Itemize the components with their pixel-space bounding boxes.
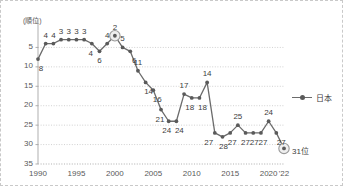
data-point-marker [121,46,125,50]
data-point-marker [136,69,140,73]
data-point-marker [190,96,194,100]
point-value-label: 24 [162,126,171,135]
data-point-marker [144,81,148,85]
x-tick-label: 2000 [104,169,126,178]
data-point-marker [282,147,286,151]
data-point-marker [244,131,248,135]
data-point-marker [174,119,178,123]
data-point-marker [128,49,132,53]
point-value-label: 3 [67,26,71,35]
point-value-label: 14 [144,87,153,96]
point-value-label: 3 [59,26,63,35]
y-tick-label: 10 [12,61,33,70]
data-point-marker [36,57,40,61]
x-tick-label: 2015 [219,169,241,178]
data-point-marker [105,42,109,46]
point-value-label: 27 [228,137,237,146]
data-point-marker [98,49,102,53]
point-value-label: 6 [97,56,101,65]
point-value-label: 4 [105,30,109,39]
x-tick-label: 1990 [27,169,49,178]
data-point-marker [198,96,202,100]
data-point-marker [251,131,255,135]
y-tick-label: 20 [12,100,33,109]
point-value-label: 8 [39,64,43,73]
y-tick-label: 35 [12,159,33,168]
data-point-marker [167,119,171,123]
x-tick-label: 2010 [181,169,203,178]
point-value-label: 24 [264,108,273,117]
point-value-label: 18 [198,102,207,111]
data-point-marker [228,131,232,135]
data-point-marker [159,108,163,112]
data-point-marker [205,81,209,85]
data-point-marker [267,119,271,123]
data-point-marker [113,34,117,38]
point-value-label: 4 [43,30,47,39]
point-value-label: 16 [153,95,162,104]
data-point-marker [90,42,94,46]
point-value-label: 25 [233,112,242,121]
data-point-marker [75,38,79,42]
point-value-label: 24 [175,126,184,135]
point-value-label: 4 [51,30,55,39]
data-point-marker [213,131,217,135]
point-value-label: 14 [203,69,212,78]
legend-label-japan: 日本 [316,92,332,103]
point-value-label: 17 [180,81,189,90]
x-tick-label: 2005 [142,169,164,178]
point-value-label: 27 [250,137,259,146]
point-value-label: 27 [277,137,286,146]
point-value-label: 3 [74,26,78,35]
data-point-marker [82,38,86,42]
data-point-marker [221,135,225,139]
y-tick-label: 15 [12,81,33,90]
data-point-marker [236,123,240,127]
y-tick-label: 30 [12,139,33,148]
data-point-marker [51,42,55,46]
legend-marker-icon [292,94,312,102]
chart-legend: 日本 [292,92,332,103]
y-tick-label: 5 [12,42,33,51]
point-value-label: 27 [204,137,213,146]
data-point-marker [67,38,71,42]
point-value-label: 28 [219,141,228,150]
point-value-label: 2 [113,22,117,31]
point-value-label: 3 [82,26,86,35]
data-point-marker [59,38,63,42]
point-value-label: 5 [120,34,124,43]
data-point-marker [182,92,186,96]
series-line-japan [38,36,284,149]
x-tick-label: '22 [273,169,295,178]
x-tick-label: 1995 [65,169,87,178]
rank-line-chart: (順位) 5101520253035 199019952000200520102… [0,0,343,186]
point-value-label: 21 [156,114,165,123]
data-point-marker [44,42,48,46]
data-point-marker [259,131,263,135]
point-value-label: 11 [134,57,142,66]
point-value-label: 27 [258,137,267,146]
data-point-marker [274,131,278,135]
point-value-label: 18 [185,102,194,111]
point-value-label: 4 [89,48,93,57]
y-tick-label: 25 [12,120,33,129]
point-value-label: 27 [241,137,250,146]
end-point-annotation: 31位 [292,145,309,156]
